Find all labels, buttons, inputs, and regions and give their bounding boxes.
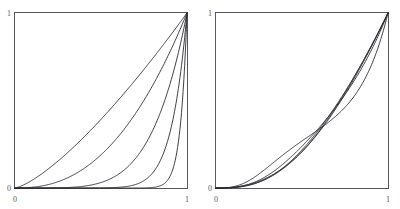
- y-max-tick-label-right: 1: [208, 9, 212, 18]
- y-min-tick-label-right: 0: [208, 184, 212, 193]
- chart-panel-right: 1 0 0 1: [200, 0, 400, 209]
- curve-line: [216, 13, 388, 188]
- curve-line: [15, 13, 187, 188]
- chart-svg-right: 1 0 0 1: [200, 0, 400, 209]
- curve-line: [216, 13, 388, 188]
- curve-group-right: [216, 13, 388, 188]
- x-min-tick-label-right: 0: [214, 195, 218, 204]
- curve-line: [15, 13, 187, 188]
- curve-line: [216, 13, 388, 188]
- curve-line: [15, 13, 187, 188]
- figure-container: 1 0 0 1 1 0 0 1: [0, 0, 400, 209]
- axis-frame-right: [216, 13, 389, 189]
- y-max-tick-label-left: 1: [7, 9, 11, 18]
- chart-panel-left: 1 0 0 1: [0, 0, 200, 209]
- axis-frame-left: [15, 13, 188, 189]
- curve-line: [15, 13, 187, 188]
- curve-group-left: [15, 13, 187, 188]
- y-min-tick-label-left: 0: [7, 184, 11, 193]
- x-min-tick-label-left: 0: [13, 195, 17, 204]
- chart-svg-left: 1 0 0 1: [0, 0, 200, 209]
- curve-line: [15, 13, 187, 188]
- curve-line: [216, 13, 388, 188]
- curve-line: [216, 13, 388, 188]
- x-max-tick-label-right: 1: [386, 195, 390, 204]
- x-max-tick-label-left: 1: [185, 195, 189, 204]
